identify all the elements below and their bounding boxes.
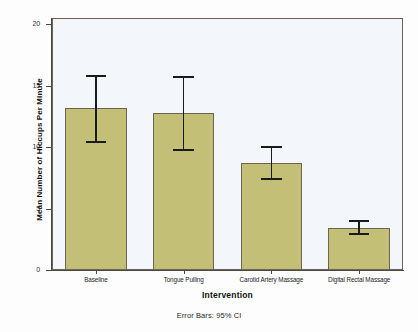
- x-tick-mark: [96, 270, 97, 274]
- error-bar-cap-upper: [349, 220, 369, 222]
- x-axis-title: Intervention: [52, 290, 403, 300]
- y-tick-label: 0: [8, 266, 40, 274]
- error-bar-cap-lower: [173, 149, 193, 151]
- x-tick-mark: [184, 270, 185, 274]
- y-tick-label: 20: [8, 20, 40, 28]
- y-tick-mark: [46, 24, 51, 25]
- y-axis-title: Mean Number of Hiccups Per Minute: [35, 50, 44, 250]
- x-tick-label: Tongue Pulling: [140, 276, 228, 284]
- y-tick-mark: [46, 209, 51, 210]
- chart-screenshot: 05101520 Mean Number of Hiccups Per Minu…: [0, 0, 418, 332]
- error-bar-stem: [95, 76, 97, 142]
- error-bar-cap-lower: [261, 178, 281, 180]
- x-tick-mark: [271, 270, 272, 274]
- chart-footnote: Error Bars: 95% CI: [0, 311, 418, 320]
- error-bar-stem: [183, 77, 185, 150]
- error-bar-cap-upper: [173, 76, 193, 78]
- error-bar-stem: [358, 221, 360, 235]
- y-tick-mark: [46, 147, 51, 148]
- error-bar-stem: [271, 147, 273, 179]
- error-bar-cap-lower: [86, 141, 106, 143]
- error-bar-cap-upper: [86, 75, 106, 77]
- y-axis-line: [51, 18, 52, 270]
- error-bar-cap-upper: [261, 146, 281, 148]
- y-tick-mark: [46, 86, 51, 87]
- x-axis-line: [51, 270, 404, 271]
- x-tick-label: Baseline: [52, 276, 140, 284]
- x-tick-mark: [359, 270, 360, 274]
- x-tick-label: Carotid Artery Massage: [228, 276, 316, 284]
- error-bar-cap-lower: [349, 233, 369, 235]
- x-tick-label: Digital Rectal Massage: [315, 276, 403, 284]
